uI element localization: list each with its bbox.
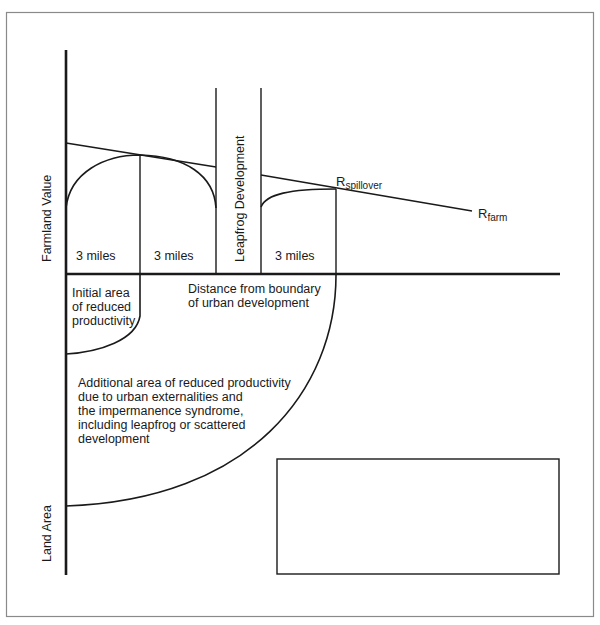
initial-area-line2: of reduced — [72, 300, 131, 314]
legend-box — [277, 459, 559, 574]
additional-area-line2: due to urban externalities and — [78, 390, 243, 404]
land-area-label: Land Area — [40, 505, 54, 562]
additional-area-line4: including leapfrog or scattered — [78, 418, 245, 432]
segment-label-1: 3 miles — [76, 249, 116, 263]
rfarm-curve-label: Rfarm — [478, 207, 507, 221]
x-axis-label-line1: Distance from boundary — [188, 282, 321, 296]
x-axis-label-line2: of urban development — [188, 296, 309, 310]
initial-area-line3: productivity — [72, 314, 135, 328]
diagram-canvas: Farmland Value Land Area Leapfrog Develo… — [0, 0, 600, 625]
additional-area-line1: Additional area of reduced productivity — [78, 376, 291, 390]
additional-area-line3: the impermanence syndrome, — [78, 404, 243, 418]
initial-area-line1: Initial area — [72, 286, 130, 300]
rspillover-curve-label: Rspillover — [336, 175, 382, 189]
rspillover-curve-outer — [261, 189, 336, 207]
leapfrog-development-label: Leapfrog Development — [233, 135, 247, 262]
farmland-value-label: Farmland Value — [40, 175, 54, 262]
segment-label-2: 3 miles — [154, 249, 194, 263]
additional-area-line5: development — [78, 432, 150, 446]
segment-label-3: 3 miles — [275, 249, 315, 263]
